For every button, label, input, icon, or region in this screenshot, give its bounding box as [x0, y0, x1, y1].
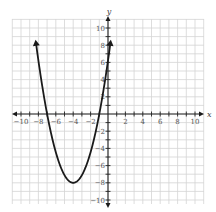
y-tick-label: −4: [95, 145, 106, 153]
y-tick-label: −8: [95, 179, 105, 187]
coordinate-plane: −10−8−6−4−2246810 108642−2−4−6−8−10 x y: [0, 0, 216, 212]
y-axis-title: y: [106, 7, 112, 16]
y-tick-label: −10: [90, 197, 105, 205]
y-tick-label: 6: [101, 59, 106, 67]
x-tick-label: −2: [85, 118, 95, 126]
y-tick-label: 8: [101, 42, 105, 50]
y-tick-label: −6: [95, 162, 106, 170]
x-axis-left-arrow-icon: [12, 112, 17, 117]
x-tick-label: −10: [14, 118, 29, 126]
x-tick-label: 4: [141, 118, 146, 126]
y-tick-label: 10: [96, 25, 105, 33]
x-axis-title: x: [207, 110, 212, 119]
y-axis-up-arrow-icon: [106, 16, 111, 21]
x-tick-label: −4: [68, 118, 79, 126]
x-tick-label: 10: [191, 118, 200, 126]
y-axis-down-arrow-icon: [106, 203, 111, 208]
x-axis-right-arrow-icon: [199, 112, 204, 117]
x-tick-label: −6: [51, 118, 62, 126]
x-tick-labels: −10−8−6−4−2246810: [14, 118, 200, 126]
x-tick-label: −8: [33, 118, 43, 126]
x-tick-label: 2: [123, 118, 127, 126]
x-tick-label: 8: [175, 118, 179, 126]
x-tick-label: 6: [158, 118, 163, 126]
